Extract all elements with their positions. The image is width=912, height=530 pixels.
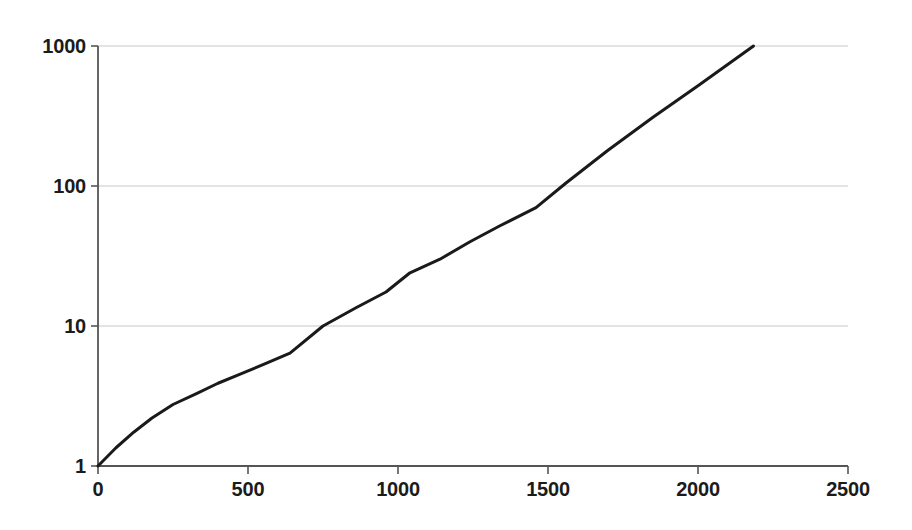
- x-tick-label-1000: 1000: [376, 478, 420, 501]
- series-line-curve: [98, 46, 754, 466]
- y-tick-label-1000: 1000: [0, 35, 86, 58]
- x-tick-label-2000: 2000: [676, 478, 720, 501]
- axis-group: [98, 46, 848, 466]
- gridline-group: [98, 46, 848, 466]
- y-tick-label-100: 100: [0, 175, 86, 198]
- x-tick-label-1500: 1500: [526, 478, 570, 501]
- chart-container: 1101001000 05001000150020002500: [0, 0, 912, 530]
- tick-mark-group: [91, 46, 848, 474]
- chart-plot-area: [0, 0, 912, 530]
- x-tick-label-0: 0: [93, 478, 104, 501]
- x-tick-label-2500: 2500: [826, 478, 870, 501]
- data-series-group: [98, 46, 754, 466]
- y-tick-label-1: 1: [0, 455, 86, 478]
- x-tick-label-500: 500: [232, 478, 265, 501]
- y-tick-label-10: 10: [0, 315, 86, 338]
